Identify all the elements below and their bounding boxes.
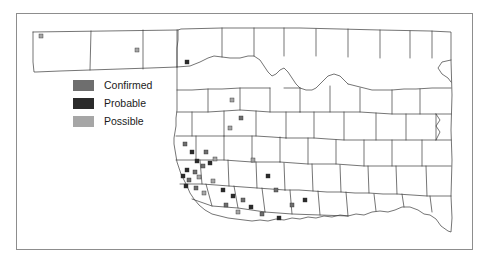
map-marker-confirmed: [290, 203, 294, 207]
legend-item-confirmed: Confirmed: [73, 77, 183, 94]
map-marker-possible: [135, 48, 139, 52]
map-marker-confirmed: [204, 150, 208, 154]
legend-item-label: Possible: [104, 116, 144, 127]
map-marker-confirmed: [224, 203, 228, 207]
map-marker-confirmed: [274, 188, 278, 192]
map-marker-probable: [208, 161, 212, 165]
map-marker-probable: [266, 174, 270, 178]
map-marker-confirmed: [193, 170, 197, 174]
map-marker-confirmed: [260, 212, 264, 216]
map-marker-possible: [236, 210, 240, 214]
figure-container: ConfirmedProbablePossible: [0, 0, 491, 274]
map-marker-confirmed: [239, 116, 243, 120]
map-marker-probable: [195, 159, 199, 163]
map-marker-possible: [39, 34, 43, 38]
map-marker-possible: [197, 175, 201, 179]
map-marker-probable: [249, 205, 253, 209]
map-marker-possible: [251, 158, 255, 162]
map-marker-probable: [181, 174, 185, 178]
map-marker-confirmed: [183, 142, 187, 146]
map-marker-probable: [185, 168, 189, 172]
map-marker-possible: [228, 126, 232, 130]
map-marker-probable: [185, 60, 189, 64]
map-legend: ConfirmedProbablePossible: [73, 77, 183, 131]
map-marker-probable: [221, 188, 225, 192]
map-marker-probable: [303, 198, 307, 202]
map-marker-confirmed: [241, 198, 245, 202]
map-marker-probable: [277, 216, 281, 220]
map-marker-probable: [184, 184, 188, 188]
legend-swatch-possible: [73, 116, 94, 127]
legend-swatch-confirmed: [73, 80, 94, 91]
legend-item-probable: Probable: [73, 95, 183, 112]
map-marker-confirmed: [194, 186, 198, 190]
map-marker-probable: [231, 194, 235, 198]
map-marker-probable: [190, 150, 194, 154]
legend-swatch-probable: [73, 98, 94, 109]
legend-item-label: Confirmed: [104, 80, 152, 91]
map-marker-confirmed: [201, 164, 205, 168]
map-marker-possible: [211, 179, 215, 183]
oklahoma-county-map: [0, 0, 491, 274]
map-marker-possible: [230, 98, 234, 102]
legend-item-label: Probable: [104, 98, 146, 109]
legend-item-possible: Possible: [73, 113, 183, 130]
map-marker-confirmed: [187, 178, 191, 182]
map-marker-possible: [213, 157, 217, 161]
map-marker-possible: [202, 191, 206, 195]
